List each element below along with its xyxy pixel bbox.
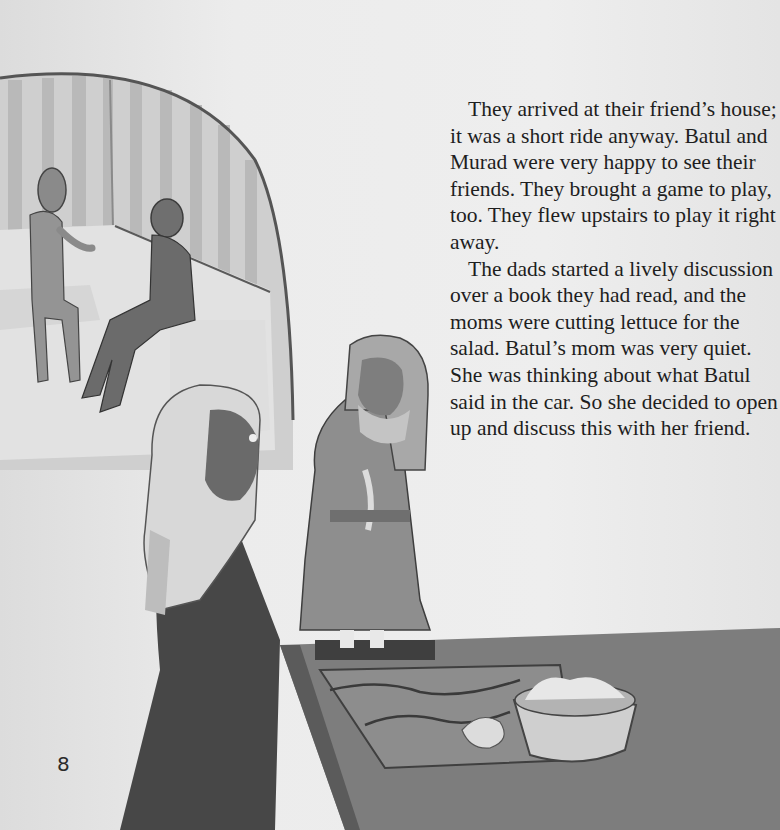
story-paragraph-1: They arrived at their friend’s house; it… bbox=[450, 96, 780, 256]
tray-with-cups bbox=[315, 630, 435, 660]
story-paragraph-2: The dads started a lively discussion ove… bbox=[450, 256, 780, 442]
book-page: They arrived at their friend’s house; it… bbox=[0, 0, 780, 830]
page-number: 8 bbox=[57, 752, 70, 776]
woman-holding-tray bbox=[300, 335, 430, 630]
story-text: They arrived at their friend’s house; it… bbox=[450, 96, 780, 442]
